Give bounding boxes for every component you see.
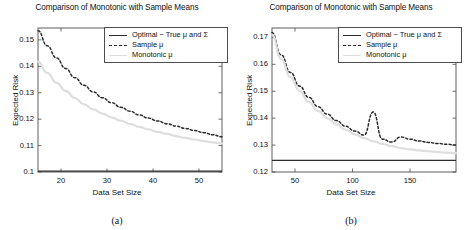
y-tick-label: 0.15 bbox=[0, 35, 34, 44]
y-tick-label: 0.13 bbox=[0, 88, 34, 97]
x-tick-label: 150 bbox=[394, 176, 426, 185]
legend-label-sample: Sample μ bbox=[366, 40, 397, 50]
legend-entry-optimal: Optimal − True μ and Σ bbox=[342, 30, 458, 40]
panel-a-legend: Optimal − True μ and Σ Sample μ Monotoni… bbox=[104, 27, 228, 63]
legend-line-light-icon bbox=[342, 50, 362, 60]
x-tick-label: 50 bbox=[279, 176, 311, 185]
panel-b-subcaption: (b) bbox=[234, 215, 468, 226]
y-tick-label: 0.12 bbox=[234, 167, 268, 176]
legend-label-monotonic: Monotonic μ bbox=[132, 50, 172, 60]
panel-a-x-axis-label: Data Set Size bbox=[0, 188, 234, 197]
figure-two-panel-comparison: Comparison of Monotonic with Sample Mean… bbox=[0, 0, 469, 230]
y-tick-label: 0.14 bbox=[0, 61, 34, 70]
legend-line-solid-icon bbox=[342, 30, 362, 40]
panel-b: Comparison of Monotonic with Sample Mean… bbox=[234, 0, 468, 230]
legend-label-monotonic: Monotonic μ bbox=[366, 50, 406, 60]
panel-a: Comparison of Monotonic with Sample Mean… bbox=[0, 0, 234, 230]
panel-b-x-axis-label: Data Set Size bbox=[234, 188, 468, 197]
legend-label-sample: Sample μ bbox=[132, 40, 163, 50]
y-tick-label: 0.17 bbox=[234, 32, 268, 41]
x-tick-label: 40 bbox=[137, 176, 169, 185]
y-tick-label: 0.11 bbox=[0, 141, 34, 150]
y-tick-label: 0.16 bbox=[234, 59, 268, 68]
legend-label-optimal: Optimal − True μ and Σ bbox=[366, 30, 442, 40]
legend-entry-monotonic: Monotonic μ bbox=[342, 50, 458, 60]
legend-entry-optimal: Optimal − True μ and Σ bbox=[108, 30, 224, 40]
y-tick-label: 0.12 bbox=[0, 114, 34, 123]
y-tick-label: 0.1 bbox=[0, 167, 34, 176]
legend-entry-sample: Sample μ bbox=[108, 40, 224, 50]
y-tick-label: 0.13 bbox=[234, 140, 268, 149]
y-tick-label: 0.14 bbox=[234, 113, 268, 122]
panel-b-legend: Optimal − True μ and Σ Sample μ Monotoni… bbox=[338, 27, 462, 63]
legend-label-optimal: Optimal − True μ and Σ bbox=[132, 30, 208, 40]
x-tick-label: 50 bbox=[183, 176, 215, 185]
x-tick-label: 20 bbox=[45, 176, 77, 185]
x-tick-label: 30 bbox=[91, 176, 123, 185]
y-tick-label: 0.15 bbox=[234, 86, 268, 95]
x-tick-label: 100 bbox=[337, 176, 369, 185]
legend-entry-sample: Sample μ bbox=[342, 40, 458, 50]
legend-entry-monotonic: Monotonic μ bbox=[108, 50, 224, 60]
legend-line-solid-icon bbox=[108, 30, 128, 40]
legend-line-light-icon bbox=[108, 50, 128, 60]
legend-line-dashed-icon bbox=[108, 40, 128, 50]
legend-line-dashed-icon bbox=[342, 40, 362, 50]
panel-a-subcaption: (a) bbox=[0, 215, 234, 226]
